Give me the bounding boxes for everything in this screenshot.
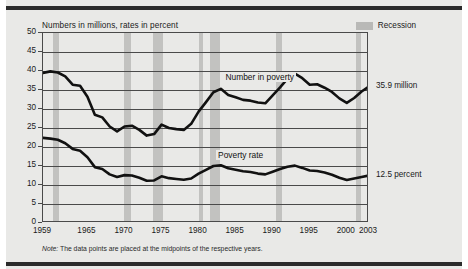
- y-tick-label: 45: [14, 46, 36, 55]
- end-value-poverty-rate: 12.5 percent: [376, 170, 422, 179]
- series-lines: [43, 33, 368, 222]
- legend-label-recession: Recession: [378, 21, 416, 30]
- note-text: The data points are placed at the midpoi…: [58, 245, 262, 252]
- axis-units-title: Numbers in millions, rates in percent: [42, 21, 178, 30]
- line-number-in-poverty: [43, 71, 368, 135]
- series-label-poverty-rate: Poverty rate: [216, 150, 265, 160]
- poverty-chart-figure: Numbers in millions, rates in percent Re…: [0, 0, 468, 269]
- x-tick-label: 1970: [114, 226, 132, 235]
- plot-area: [42, 32, 368, 222]
- x-tick-label: 2003: [359, 226, 377, 235]
- x-tick-label: 1980: [188, 226, 206, 235]
- top-rule: [0, 6, 468, 10]
- x-tick-label: 1975: [151, 226, 169, 235]
- bottom-rule: [0, 262, 468, 266]
- line-poverty-rate: [43, 138, 368, 181]
- y-tick-label: 5: [14, 198, 36, 207]
- left-margin-mask: [0, 0, 6, 269]
- x-tick-label: 1959: [33, 226, 51, 235]
- y-tick-mark: [38, 222, 42, 223]
- legend: Recession: [356, 21, 416, 30]
- y-tick-label: 15: [14, 160, 36, 169]
- x-tick-label: 2000: [337, 226, 355, 235]
- y-tick-label: 35: [14, 84, 36, 93]
- note-label: Note:: [42, 245, 58, 252]
- chart-note: Note: The data points are placed at the …: [42, 245, 263, 252]
- y-tick-label: 50: [14, 27, 36, 36]
- x-tick-label: 1965: [77, 226, 95, 235]
- series-label-number-in-poverty: Number in poverty: [224, 72, 296, 82]
- x-tick-label: 1985: [226, 226, 244, 235]
- y-tick-label: 10: [14, 179, 36, 188]
- y-tick-label: 25: [14, 122, 36, 131]
- x-tick-label: 1995: [300, 226, 318, 235]
- x-tick-label: 1990: [263, 226, 281, 235]
- y-tick-label: 0: [14, 217, 36, 226]
- right-margin-mask: [462, 0, 468, 269]
- recession-swatch-icon: [356, 22, 373, 30]
- end-value-number-in-poverty: 35.9 million: [376, 81, 417, 90]
- y-tick-label: 20: [14, 141, 36, 150]
- y-tick-label: 30: [14, 103, 36, 112]
- y-tick-label: 40: [14, 65, 36, 74]
